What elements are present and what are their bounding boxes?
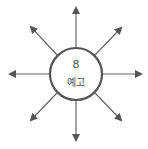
arrow-up-left-icon: [31, 27, 57, 55]
arrow-down-left-icon: [31, 93, 57, 120]
center-number: 8: [50, 58, 102, 71]
center-label: 예고: [50, 74, 102, 89]
arrow-up-right-icon: [95, 28, 121, 55]
arrow-down-right-icon: [95, 93, 121, 120]
